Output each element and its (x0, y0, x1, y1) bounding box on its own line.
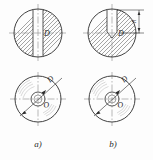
centerlines (84, 72, 140, 126)
centerlines (10, 72, 66, 126)
center-label: O (43, 100, 51, 110)
diameter-label-b: D (117, 29, 124, 38)
centerlines (9, 4, 68, 62)
diameter-label: D (45, 74, 56, 85)
diameter-leader (20, 78, 62, 116)
figure-b-section: D h (80, 2, 152, 64)
diameter-label-a: D (43, 29, 50, 38)
drawing-sheet: D (0, 0, 153, 160)
figure-a-section: D (6, 2, 76, 64)
center-label: O (117, 100, 125, 110)
surface-marks (18, 80, 56, 116)
caption-b: b) (93, 139, 133, 149)
figure-b-endview: D O (80, 68, 150, 134)
diameter-leader (94, 78, 136, 116)
diameter-label: D (119, 74, 130, 85)
caption-a: a) (18, 139, 58, 149)
figure-a-endview: D O (6, 68, 76, 134)
depth-label: h (130, 19, 138, 23)
surface-marks (92, 80, 130, 116)
